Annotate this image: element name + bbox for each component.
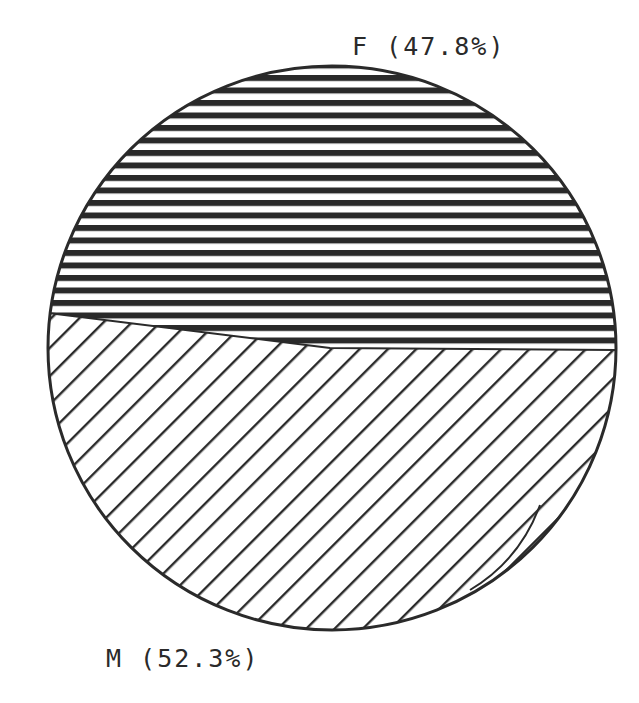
pie-slice-f xyxy=(0,0,639,350)
label-m: M (52.3%) xyxy=(106,644,259,673)
pie-chart xyxy=(0,0,639,703)
label-f: F (47.8%) xyxy=(352,32,505,61)
